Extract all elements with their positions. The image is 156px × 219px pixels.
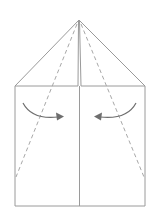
center-left-flap-edge [78, 21, 79, 86]
right-roof-edge [79, 20, 145, 86]
left-valley-fold-line [16, 24, 77, 177]
center-right-flap-edge [80, 21, 82, 86]
center-crease [78, 21, 81, 206]
diagram-svg [0, 0, 156, 219]
right-valley-fold-line [81, 24, 144, 177]
left-roof-edge [15, 20, 79, 86]
origami-diagram [0, 0, 156, 219]
arrowhead-left-icon [94, 113, 102, 121]
arrowhead-right-icon [56, 113, 64, 121]
right-fold-arrow-icon [100, 103, 136, 117]
